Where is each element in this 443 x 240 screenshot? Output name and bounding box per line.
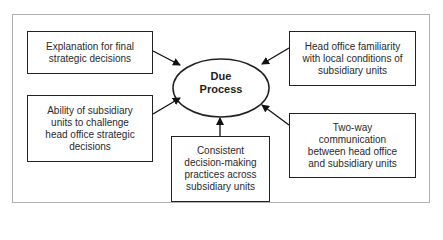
node-ability-label: Ability of subsidiary units to challenge… — [42, 105, 138, 153]
arrow-ability-to-center — [153, 98, 180, 114]
node-two-way: Two-way communication between head offic… — [289, 113, 416, 178]
node-familiarity-label: Head office familiarity with local condi… — [299, 41, 407, 77]
due-process-label-line1: Due — [173, 70, 269, 83]
node-explanation-label: Explanation for final strategic decision… — [40, 41, 140, 65]
arrow-explanation-to-center — [153, 51, 180, 65]
node-consistent: Consistent decision-making practices acr… — [171, 136, 270, 202]
node-familiarity: Head office familiarity with local condi… — [289, 31, 416, 86]
arrow-two-way-to-center — [262, 105, 289, 125]
node-consistent-label: Consistent decision-making practices acr… — [178, 145, 264, 193]
node-explanation: Explanation for final strategic decision… — [27, 31, 153, 74]
arrow-familiarity-to-center — [262, 48, 289, 64]
node-ability: Ability of subsidiary units to challenge… — [27, 95, 153, 162]
due-process-label: Due Process — [173, 70, 269, 96]
node-two-way-label: Two-way communication between head offic… — [303, 122, 403, 170]
due-process-label-line2: Process — [173, 83, 269, 96]
